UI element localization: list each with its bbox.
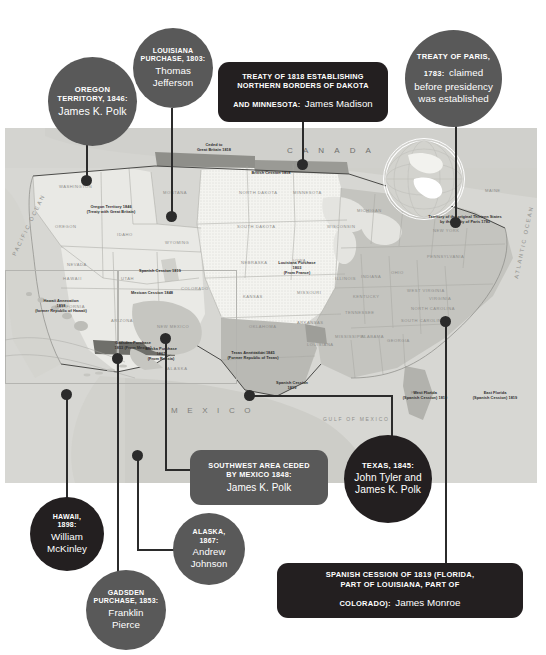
callout-texas-president-line1: John Tyler and [354,472,421,485]
map-annotation-louisiana-purchase: Louisiana Purchase 1803 (From France) [257,260,337,275]
callout-alaska-president-line1: Andrew [191,546,228,558]
callout-spanish-caption-tail: COLORADO): [339,599,390,608]
map-annotation-ceded-britain: Ceded to Great Britain 1818 [179,142,249,152]
callout-gadsden-purchase[interactable]: GADSDEN PURCHASE, 1853: Franklin Pierce [86,570,166,650]
callout-treaty1818-line2: NORTHERN BORDERS OF DAKOTA [233,81,372,91]
callout-louisiana-caption-line2: PURCHASE, 1803: [141,55,206,64]
connector-dot-treaty-paris [450,217,461,228]
callout-alaska-president-line2: Johnson [191,558,228,570]
globe-inset-icon [383,138,465,220]
map-annotation-alaska-purchase: Alaska Purchase 1867 (From Russia) [121,346,201,361]
callout-paris-caption-line1: TREATY OF PARIS, [414,52,493,61]
map-annotation-hawaii-annexation: Hawaii Annexation 1898 (former Republic … [13,298,109,313]
callout-texas-president-line2: James K. Polk [354,484,421,497]
connector-dot-spanish-cession [440,316,451,327]
callout-hawaii-caption-line2: 1898: [47,521,87,530]
callout-alaska-caption-line2: 1867: [191,537,228,546]
callout-southwest-area-ceded[interactable]: SOUTHWEST AREA CEDED BY MEXICO 1848: Jam… [190,450,328,505]
connector-dot-hawaii [61,389,72,400]
callout-southwest-line1: SOUTHWEST AREA CEDED [208,461,309,471]
callout-hawaii[interactable]: HAWAII, 1898: William McKinley [30,497,104,571]
callout-alaska[interactable]: ALASKA, 1867: Andrew Johnson [173,513,245,585]
callout-treaty1818-president: James Madison [305,98,373,109]
callout-southwest-president: James K. Polk [208,481,309,494]
map-annotation-spanish-cession-west: Spanish Cession 1819 [117,268,203,273]
insets-illustration [5,270,237,388]
map-annotation-west-florida: West Florida (Spanish Cession) 1819 [387,390,463,400]
callout-treaty-of-paris[interactable]: TREATY OF PARIS, 1783: claimed before pr… [405,30,502,127]
map-annotation-treaty-of-paris: Territory of the original Thirteen State… [403,214,527,224]
connector-dot-texas [244,390,255,401]
callout-alaska-caption-line1: ALASKA, [191,528,228,537]
callout-paris-line4: was established [414,93,493,105]
connector-texas-horizontal [249,395,393,397]
callout-oregon-caption-line2: TERRITORY, 1846: [57,94,128,103]
connector-alaska-vertical [137,457,139,550]
callout-treaty-of-1818[interactable]: TREATY OF 1818 ESTABLISHING NORTHERN BOR… [218,62,388,122]
callout-gadsden-caption-line1: GADSDEN [94,589,159,598]
map-annotation-east-florida: East Florida (Spanish Cession) 1819 [457,390,533,400]
callout-paris-claimed: claimed [449,67,483,78]
callout-texas[interactable]: TEXAS, 1845: John Tyler and James K. Pol… [344,435,432,523]
callout-gadsden-president-line1: Franklin [94,607,159,619]
map-annotation-oregon-territory: Oregon Territory 1846 (Treaty with Great… [61,204,161,214]
callout-louisiana-purchase[interactable]: LOUISIANA PURCHASE, 1803: Thomas Jeffers… [133,28,213,108]
callout-treaty1818-caption-tail: AND MINNESOTA: [233,100,300,109]
map-annotation-spanish-cession-south: Spanish Cession 1819 [257,380,327,390]
callout-southwest-line2: BY MEXICO 1848: [208,470,309,480]
callout-texas-caption: TEXAS, 1845: [354,461,421,470]
callout-gadsden-president-line2: Pierce [94,619,159,631]
callout-paris-line2: 1783: claimed [414,61,493,81]
callout-hawaii-president-line1: William [47,531,87,543]
callout-spanish-line2: PART OF LOUISIANA, PART OF [326,580,475,590]
connector-dot-louisiana [166,211,177,222]
callout-louisiana-caption-line1: LOUISIANA [141,47,206,56]
callout-spanish-line1: SPANISH CESSION OF 1819 (FLORIDA, [326,570,475,580]
infographic-canvas: C A N A D A M E X I C O PACIFIC OCEAN AT… [0,0,546,655]
map-annotation-british-cession: British Cession 1818 [233,170,309,175]
callout-hawaii-caption-line1: HAWAII, [47,513,87,522]
connector-dot-southwest [160,333,171,344]
callout-gadsden-caption-line2: PURCHASE, 1853: [94,597,159,606]
connector-louisiana [171,108,173,218]
connector-treaty-paris [455,123,457,225]
callout-paris-year: 1783: [424,69,445,78]
connector-dot-gadsden [112,353,123,364]
map-annotation-mexican-cession: Mexican Cession 1848 [109,290,195,295]
callout-oregon-president: James K. Polk [57,105,128,118]
connector-dot-alaska [132,450,143,461]
callout-treaty1818-line3: AND MINNESOTA: James Madison [233,91,372,112]
callout-treaty1818-line1: TREATY OF 1818 ESTABLISHING [233,72,372,82]
callout-hawaii-president-line2: McKinley [47,543,87,555]
callout-paris-line3: before presidency [414,81,493,93]
connector-southwest-vertical [165,340,167,470]
connector-spanish-cession [445,323,447,565]
connector-dot-treaty-1818 [297,159,308,170]
connector-gadsden [117,360,119,572]
callout-louisiana-president-line1: Thomas [141,65,206,77]
callout-oregon-caption-line1: OREGON [57,85,128,94]
map-annotation-texas-annexation: Texas Annexation 1845 (Former Republic o… [203,350,303,360]
callout-oregon-territory[interactable]: OREGON TERRITORY, 1846: James K. Polk [48,57,137,146]
connector-hawaii [66,396,68,498]
callout-louisiana-president-line2: Jefferson [141,77,206,89]
callout-spanish-line3: COLORADO): James Monroe [326,590,475,611]
callout-spanish-president: James Monroe [395,597,460,608]
connector-texas-vertical [391,395,393,437]
connector-dot-oregon [81,175,92,186]
callout-spanish-cession[interactable]: SPANISH CESSION OF 1819 (FLORIDA, PART O… [277,563,523,618]
